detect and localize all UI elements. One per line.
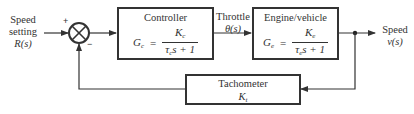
output-signal: v(s) <box>376 36 414 48</box>
throttle-label: Throttle θ(s) <box>214 11 252 35</box>
input-signal: R(s) <box>2 38 44 50</box>
tachometer-title: Tachometer <box>187 78 299 89</box>
controller-title: Controller <box>119 12 212 23</box>
plus-sign: + <box>63 16 68 26</box>
output-label: Speed v(s) <box>376 24 414 48</box>
tachometer-gain: Kt <box>187 91 299 104</box>
engine-transfer-function: Ge = Ke τes + 1 <box>254 27 337 59</box>
engine-title: Engine/vehicle <box>254 12 337 23</box>
controller-block: Controller Gc = Kc τcs + 1 <box>117 7 214 60</box>
controller-transfer-function: Gc = Kc τcs + 1 <box>119 27 212 59</box>
input-label: Speed setting R(s) <box>2 14 44 50</box>
summing-junction <box>69 23 89 43</box>
throttle-signal: θ(s) <box>214 23 252 35</box>
tachometer-block: Tachometer Kt <box>185 74 301 105</box>
minus-sign: − <box>87 39 92 49</box>
engine-vehicle-block: Engine/vehicle Ge = Ke τes + 1 <box>252 7 339 60</box>
